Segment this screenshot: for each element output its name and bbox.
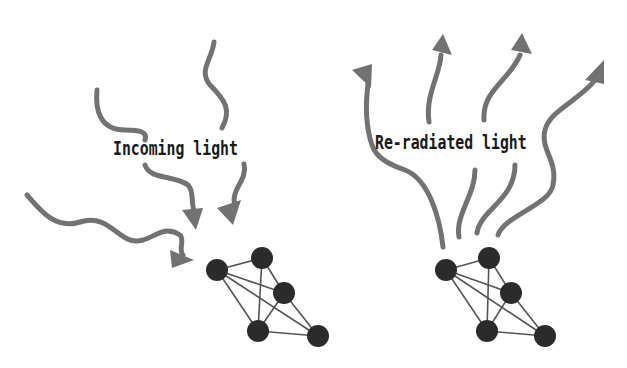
atom [206, 259, 228, 281]
reradiated-light-label: Re-radiated light [375, 131, 527, 153]
outgoing-arrow-1 [366, 82, 443, 247]
atom [251, 247, 273, 269]
atom [247, 320, 269, 342]
arrowhead-out-2 [432, 34, 452, 55]
atom [273, 282, 295, 304]
left-molecule [206, 247, 329, 347]
atom [435, 259, 457, 281]
diagram-canvas [0, 0, 627, 368]
arrowhead-out-3 [511, 33, 532, 54]
incoming-arrow-3 [205, 42, 226, 128]
outgoing-arrow-4 [498, 80, 595, 235]
incoming-arrow-1 [27, 195, 183, 255]
atom [307, 325, 329, 347]
atom [478, 247, 500, 269]
right-molecule [435, 247, 556, 347]
arrowhead-out-4 [585, 60, 604, 84]
atom [476, 320, 498, 342]
atom [534, 325, 556, 347]
arrowhead-4 [217, 200, 241, 225]
atom [500, 282, 522, 304]
arrowhead-2 [182, 208, 203, 230]
incoming-arrow-4 [234, 164, 244, 205]
arrowhead-out-1 [352, 64, 372, 88]
incoming-light-label: Incoming light [113, 137, 238, 159]
